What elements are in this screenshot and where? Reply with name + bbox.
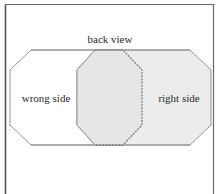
diagram-figure: back view wrong side right side xyxy=(0,0,219,194)
wrong-side-label: wrong side xyxy=(22,92,71,104)
right-side-label: right side xyxy=(158,92,199,104)
overlap-panel xyxy=(77,50,142,145)
diagram-canvas: back view wrong side right side xyxy=(0,0,219,194)
back-view-label: back view xyxy=(88,33,133,45)
